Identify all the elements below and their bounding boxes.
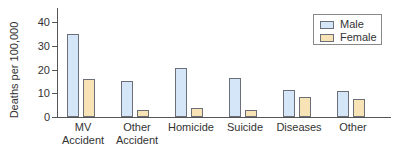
bar-female — [353, 99, 365, 117]
x-category-label: Suicide — [215, 121, 275, 134]
bar-male — [67, 34, 79, 117]
bar-male — [229, 78, 241, 117]
bar-female — [137, 110, 149, 117]
bar-male — [337, 91, 349, 117]
category-line-1: Suicide — [215, 121, 275, 134]
legend: Male Female — [313, 14, 382, 45]
bar-female — [299, 97, 311, 117]
bar-female — [245, 110, 257, 117]
legend-label-male: Male — [340, 19, 364, 30]
y-tick-label: 0 — [28, 112, 50, 123]
category-line-2: Accident — [107, 134, 167, 147]
y-tick — [52, 22, 57, 23]
y-tick-label: 20 — [28, 65, 50, 76]
female-swatch — [320, 34, 334, 42]
category-line-1: Other — [107, 121, 167, 134]
category-line-1: Diseases — [269, 121, 329, 134]
bar-male — [121, 81, 133, 117]
bar-female — [83, 79, 95, 117]
legend-item-male: Male — [320, 19, 364, 30]
y-tick — [52, 70, 57, 71]
legend-item-female: Female — [320, 32, 377, 43]
y-tick-label: 10 — [28, 88, 50, 99]
x-category-label: MVAccident — [53, 121, 113, 147]
x-category-label: Homicide — [161, 121, 221, 134]
category-line-1: MV — [53, 121, 113, 134]
category-line-1: Homicide — [161, 121, 221, 134]
bar-male — [175, 68, 187, 117]
y-tick-label: 30 — [28, 41, 50, 52]
bar-male — [283, 90, 295, 117]
male-swatch — [320, 21, 334, 29]
y-axis-label: Deaths per 100,000 — [8, 22, 20, 119]
x-category-label: Other — [323, 121, 383, 134]
category-line-2: Accident — [53, 134, 113, 147]
y-tick-label: 40 — [28, 17, 50, 28]
legend-label-female: Female — [340, 32, 377, 43]
y-tick — [52, 117, 57, 118]
y-tick — [52, 93, 57, 94]
x-category-label: Diseases — [269, 121, 329, 134]
category-line-1: Other — [323, 121, 383, 134]
y-axis — [57, 8, 58, 118]
bar-female — [191, 108, 203, 117]
x-axis — [57, 117, 391, 118]
bar-chart: Deaths per 100,000 010203040 MVAccidentO… — [0, 0, 403, 149]
y-tick — [52, 46, 57, 47]
x-category-label: OtherAccident — [107, 121, 167, 147]
